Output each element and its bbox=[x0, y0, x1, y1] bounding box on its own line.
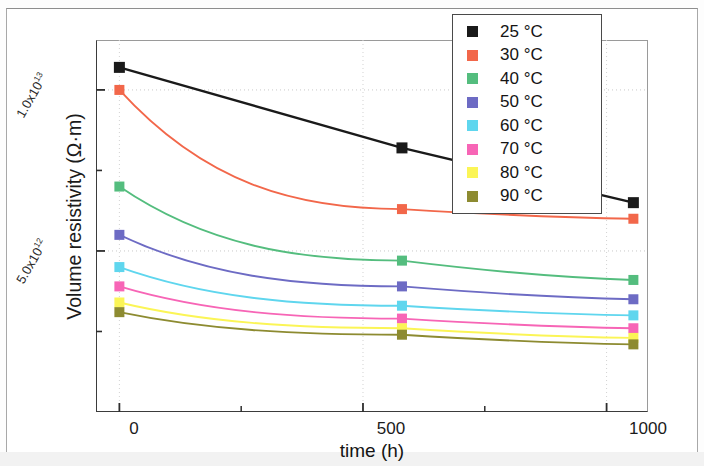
series-line bbox=[119, 286, 633, 328]
legend-swatch-icon bbox=[467, 144, 478, 155]
x-tick-label-500: 500 bbox=[351, 419, 431, 439]
figure-page: Volume resistivity (Ω·m) 1.0x1013 5.0x10… bbox=[0, 0, 704, 466]
x-tick-label-1000: 1000 bbox=[608, 419, 688, 439]
series-line bbox=[119, 302, 633, 337]
legend-item-label: 60 °C bbox=[500, 116, 543, 136]
legend-item-label: 40 °C bbox=[500, 69, 543, 89]
series-line bbox=[119, 235, 633, 299]
legend-item-label: 80 °C bbox=[500, 163, 543, 183]
legend-item-label: 90 °C bbox=[500, 186, 543, 206]
legend-item: 30 °C bbox=[453, 44, 601, 68]
legend-item-label: 70 °C bbox=[500, 139, 543, 159]
legend-swatch-icon bbox=[467, 167, 478, 178]
legend-item: 70 °C bbox=[453, 138, 601, 162]
series-marker bbox=[628, 214, 638, 224]
chart-series bbox=[114, 262, 638, 320]
series-marker bbox=[628, 310, 638, 320]
legend-item: 40 °C bbox=[453, 67, 601, 91]
series-marker bbox=[397, 256, 407, 266]
series-marker bbox=[397, 314, 407, 324]
legend-item: 80 °C bbox=[453, 161, 601, 185]
legend-swatch-icon bbox=[467, 73, 478, 84]
series-marker bbox=[628, 275, 638, 285]
series-marker bbox=[397, 281, 407, 291]
series-marker bbox=[114, 307, 124, 317]
series-marker bbox=[397, 330, 407, 340]
legend-item-label: 30 °C bbox=[500, 45, 543, 65]
legend-swatch-icon bbox=[467, 50, 478, 61]
series-marker bbox=[114, 62, 125, 73]
series-marker bbox=[114, 262, 124, 272]
series-line bbox=[119, 267, 633, 315]
legend-item-label: 25 °C bbox=[500, 22, 543, 42]
series-marker bbox=[397, 204, 407, 214]
y-axis-title: Volume resistivity (Ω·m) bbox=[63, 57, 86, 377]
series-marker bbox=[628, 323, 638, 333]
legend-item: 25 °C bbox=[453, 20, 601, 44]
series-marker bbox=[114, 85, 124, 95]
legend-item: 50 °C bbox=[453, 91, 601, 115]
series-marker bbox=[628, 197, 639, 208]
series-marker bbox=[396, 142, 407, 153]
x-axis-title: time (h) bbox=[272, 440, 472, 462]
legend-swatch-icon bbox=[467, 26, 478, 37]
chart-series bbox=[114, 281, 638, 333]
series-marker bbox=[114, 182, 124, 192]
series-marker bbox=[114, 281, 124, 291]
series-marker bbox=[397, 301, 407, 311]
legend-item: 60 °C bbox=[453, 114, 601, 138]
series-marker bbox=[114, 230, 124, 240]
legend-swatch-icon bbox=[467, 120, 478, 131]
legend-item-label: 50 °C bbox=[500, 92, 543, 112]
series-marker bbox=[628, 339, 638, 349]
chart-series bbox=[114, 230, 638, 304]
series-marker bbox=[628, 294, 638, 304]
legend: 25 °C30 °C40 °C50 °C60 °C70 °C80 °C90 °C bbox=[452, 14, 602, 214]
series-marker bbox=[114, 297, 124, 307]
legend-swatch-icon bbox=[467, 191, 478, 202]
legend-swatch-icon bbox=[467, 97, 478, 108]
legend-item: 90 °C bbox=[453, 185, 601, 209]
x-tick-label-0: 0 bbox=[94, 419, 174, 439]
